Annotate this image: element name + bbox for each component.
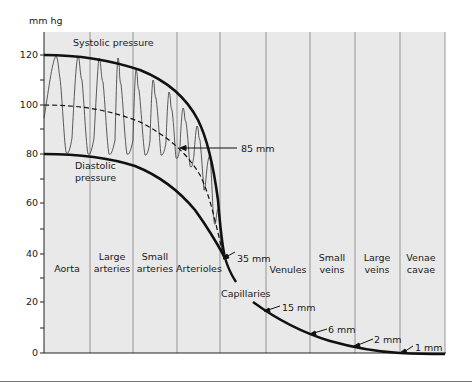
segment-large-veins-1: Large <box>364 252 391 263</box>
plot-area <box>44 32 445 353</box>
pressure-chart: mm hg 120 100 80 60 40 20 0 Systolic pre… <box>0 0 472 388</box>
annotation-85mm: 85 mm <box>241 143 275 154</box>
annotation-1mm: 1 mm <box>415 342 443 353</box>
annotation-15mm: 15 mm <box>282 302 316 313</box>
y-tick-120: 120 <box>20 49 38 60</box>
segment-venae-cavae-1: Venae <box>406 252 435 263</box>
bottom-rule <box>0 381 472 382</box>
segment-aorta: Aorta <box>54 263 80 274</box>
y-tick-60: 60 <box>26 197 38 208</box>
diastolic-label-line1: Diastolic <box>75 160 116 171</box>
annotation-6mm: 6 mm <box>328 324 356 335</box>
segment-venules: Venules <box>269 264 306 275</box>
segment-small-veins-2: veins <box>319 264 344 275</box>
y-axis-unit: mm hg <box>29 15 63 26</box>
y-tick-20: 20 <box>26 296 38 307</box>
y-tick-40: 40 <box>26 248 38 259</box>
segment-small-arteries-1: Small <box>142 251 168 262</box>
y-tick-100: 100 <box>20 99 38 110</box>
segment-large-arteries-2: arteries <box>94 263 131 274</box>
diastolic-label-line2: pressure <box>75 172 116 183</box>
y-tick-0: 0 <box>32 347 38 358</box>
annotation-2mm: 2 mm <box>374 334 402 345</box>
segment-large-veins-2: veins <box>364 264 389 275</box>
segment-large-arteries-1: Large <box>99 251 126 262</box>
annotation-35mm: 35 mm <box>237 253 271 264</box>
y-tick-80: 80 <box>26 148 38 159</box>
capillaries-label: Capillaries <box>221 288 271 299</box>
segment-arterioles: Arterioles <box>176 263 222 274</box>
segment-small-veins-1: Small <box>319 252 345 263</box>
segment-venae-cavae-2: cavae <box>407 264 435 275</box>
systolic-label: Systolic pressure <box>73 37 154 48</box>
segment-small-arteries-2: arteries <box>137 263 174 274</box>
